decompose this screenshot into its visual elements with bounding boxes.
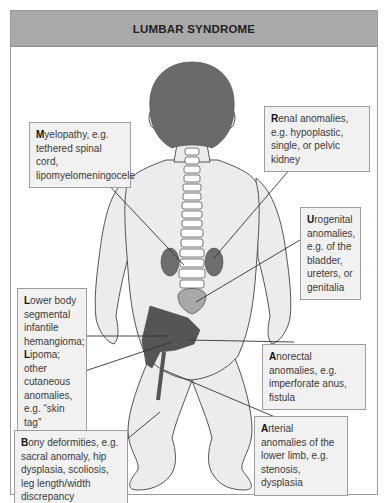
- label-text: ower body segmental infantile hemangioma…: [24, 295, 85, 347]
- label-urogenital: Urogenital anomalies, e.g. of the bladde…: [300, 207, 361, 300]
- label-myelopathy: Myelopathy, e.g. tethered spinal cord, l…: [29, 122, 131, 188]
- label-text-2: ipoma; other cutaneous anomalies, e.g. “…: [24, 349, 72, 428]
- head-hair: [150, 62, 234, 148]
- label-renal: Renal anomalies, e.g. hypoplastic, singl…: [264, 106, 370, 172]
- label-text: ony deformities, e.g. sacral anomaly, hi…: [21, 437, 118, 502]
- label-text: rogenital anomalies, e.g. of the bladder…: [307, 214, 355, 293]
- label-text: norectal anomalies, e.g. imperforate anu…: [269, 351, 347, 403]
- label-anorectal: Anorectal anomalies, e.g. imperforate an…: [262, 344, 366, 410]
- right-kidney: [205, 248, 223, 276]
- label-bony: Bony deformities, e.g. sacral anomaly, h…: [14, 430, 128, 503]
- label-arterial: Arterial anomalies of the lower limb, e.…: [254, 416, 348, 496]
- label-text: yelopathy, e.g. tethered spinal cord, li…: [36, 129, 135, 181]
- label-text: enal anomalies, e.g. hypoplastic, single…: [271, 113, 348, 165]
- left-kidney: [161, 248, 179, 276]
- label-lower-body: Lower body segmental infantile hemangiom…: [17, 288, 87, 435]
- label-text: rterial anomalies of the lower limb, e.g…: [261, 423, 334, 488]
